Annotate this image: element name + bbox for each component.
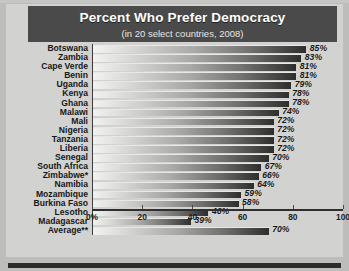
bar-track: 64% <box>92 180 343 189</box>
x-axis: 0%20406080100 <box>92 209 343 231</box>
bar-row: Cape Verde81% <box>6 62 343 71</box>
bar-track: 74% <box>92 108 343 117</box>
bar <box>93 145 274 153</box>
bar <box>93 100 289 108</box>
bar <box>93 81 291 89</box>
axis-tick <box>192 205 193 209</box>
bar-track: 59% <box>92 190 343 199</box>
bar <box>93 109 279 117</box>
bar <box>93 127 274 135</box>
bar <box>93 63 296 71</box>
axis-tick <box>92 205 93 209</box>
chart-card: Percent Who Prefer Democracy (in 20 sele… <box>6 4 343 257</box>
axis-tick <box>293 205 294 209</box>
bar-row: Botswana85% <box>6 44 343 53</box>
bar-track: 72% <box>92 135 343 144</box>
axis-tick <box>243 205 244 209</box>
bar-track: 70% <box>92 153 343 162</box>
axis-tick <box>142 205 143 209</box>
chart-figure: Percent Who Prefer Democracy (in 20 sele… <box>0 0 349 271</box>
x-axis-line <box>92 209 343 211</box>
bar <box>93 172 259 180</box>
bar <box>93 191 241 199</box>
axis-tick-label: 40 <box>188 212 197 222</box>
axis-tick <box>343 205 344 209</box>
chart-subtitle: (in 20 select countries, 2008) <box>28 27 337 40</box>
bar <box>93 163 261 171</box>
axis-tick-label: 80 <box>288 212 297 222</box>
footer-rule <box>8 263 341 268</box>
bar-track: 72% <box>92 144 343 153</box>
bar <box>93 182 254 190</box>
bar <box>93 136 274 144</box>
axis-tick-label: 0% <box>86 212 98 222</box>
bar-track: 67% <box>92 162 343 171</box>
bar-track: 66% <box>92 171 343 180</box>
bar-track: 72% <box>92 117 343 126</box>
page-title: Percent Who Prefer Democracy <box>28 8 337 27</box>
category-label: Average** <box>6 226 92 235</box>
chart-title-banner: Percent Who Prefer Democracy (in 20 sele… <box>28 6 337 42</box>
top-edge <box>0 0 349 3</box>
axis-tick-label: 60 <box>238 212 247 222</box>
bar-track: 78% <box>92 99 343 108</box>
axis-tick-label: 20 <box>138 212 147 222</box>
bar-track: 72% <box>92 126 343 135</box>
bar <box>93 91 289 99</box>
bar <box>93 45 306 53</box>
bar <box>93 154 269 162</box>
bar <box>93 118 274 126</box>
bar <box>93 72 296 80</box>
bar-value-label: 58% <box>242 198 259 208</box>
bar <box>93 54 301 62</box>
axis-tick-label: 100 <box>336 212 349 222</box>
